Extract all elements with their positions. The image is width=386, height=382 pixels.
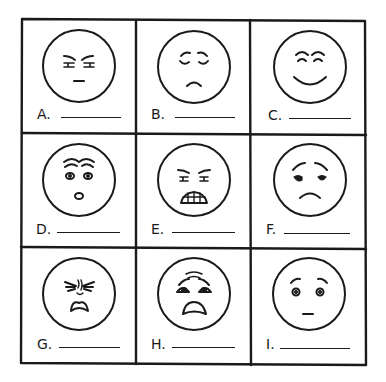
label-i: I. (266, 337, 275, 351)
face-e-furious (158, 144, 230, 216)
answer-blank-i[interactable] (280, 348, 350, 349)
emotion-faces-worksheet: A. B. C. D. E. F. G. H. I. (0, 0, 386, 382)
answer-blank-a[interactable] (61, 117, 121, 118)
answer-blank-h[interactable] (172, 347, 235, 348)
face-a-angry (43, 30, 115, 102)
answer-blank-g[interactable] (59, 347, 120, 348)
face-c-happy (274, 31, 346, 103)
label-a: A. (37, 107, 51, 121)
face-d-surprised (43, 144, 115, 216)
label-g: G. (37, 337, 52, 351)
face-h-scared (158, 258, 230, 330)
face-f-worried (274, 144, 346, 216)
label-f: F. (266, 222, 276, 236)
face-b-sad (158, 31, 230, 103)
label-d: D. (36, 222, 51, 236)
face-g-disgusted (43, 258, 115, 330)
label-c: C. (268, 108, 282, 122)
label-h: H. (151, 337, 166, 351)
answer-blank-b[interactable] (175, 117, 235, 118)
worksheet-grid (0, 0, 386, 382)
answer-blank-d[interactable] (57, 232, 120, 233)
label-e: E. (151, 222, 164, 236)
face-i-neutral (273, 258, 345, 330)
answer-blank-c[interactable] (289, 118, 351, 119)
answer-blank-f[interactable] (284, 233, 350, 234)
answer-blank-e[interactable] (172, 232, 235, 233)
label-b: B. (151, 107, 165, 121)
